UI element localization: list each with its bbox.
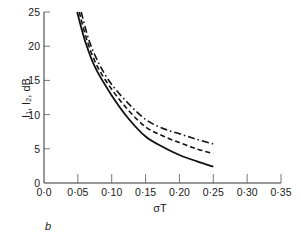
x-axis-label: σT xyxy=(153,202,167,214)
x-tick-label: 0·25 xyxy=(203,186,224,198)
y-tick-label: 25 xyxy=(28,6,40,18)
y-tick-label: 5 xyxy=(34,143,40,155)
y-axis-label: I₁, I₂, dB xyxy=(20,78,32,118)
axis-labels: I₁, I₂, dB σT b xyxy=(20,78,167,232)
series-solid xyxy=(77,12,213,167)
y-tick-label: 20 xyxy=(28,40,40,52)
x-tick-label: 0·20 xyxy=(169,186,190,198)
x-tick-label: 0·10 xyxy=(101,186,122,198)
x-tick-label: 0·05 xyxy=(67,186,88,198)
x-tick-label: 0·15 xyxy=(135,186,156,198)
x-tick-label: 0·35 xyxy=(270,186,291,198)
x-tick-label: 0·30 xyxy=(237,186,258,198)
chart: 0·00·050·100·150·200·250·300·35051015202… xyxy=(0,0,301,232)
axes: 0·00·050·100·150·200·250·300·35051015202… xyxy=(28,6,291,198)
plot-area xyxy=(77,12,213,167)
panel-label: b xyxy=(45,220,51,232)
y-tick-label: 0 xyxy=(34,177,40,189)
series-dashed xyxy=(79,12,213,154)
